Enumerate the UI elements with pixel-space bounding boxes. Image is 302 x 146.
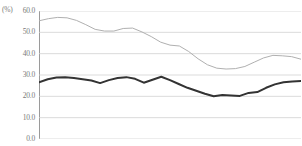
plot-area [39, 11, 301, 139]
y-tick-label: 50.0 [23, 28, 35, 36]
y-tick-label: 30.0 [23, 71, 35, 79]
plot-svg [39, 11, 301, 139]
gridlines [39, 11, 301, 139]
y-tick-label: 60.0 [23, 7, 35, 15]
line-chart: (%) 60.050.040.030.020.010.00.0 [0, 0, 302, 146]
series-line-upper-line [39, 17, 301, 69]
y-axis-tick-labels: 60.050.040.030.020.010.00.0 [0, 0, 38, 146]
y-tick-label: 40.0 [23, 50, 35, 58]
series-group [39, 17, 301, 96]
y-tick-label: 10.0 [23, 114, 35, 122]
y-tick-label: 0.0 [26, 135, 35, 143]
y-tick-label: 20.0 [23, 92, 35, 100]
series-line-lower-line [39, 77, 301, 97]
